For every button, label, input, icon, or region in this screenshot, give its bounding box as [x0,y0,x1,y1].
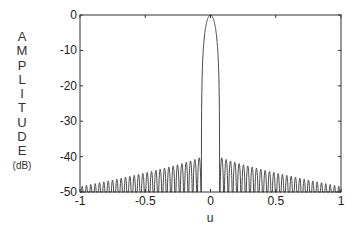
x-tick-label: 0.5 [267,194,284,208]
pattern-curve [80,15,341,192]
axis-ticks: -1-0.500.510-10-20-30-40-50 [60,8,345,208]
y-tick-label: -20 [60,79,78,93]
y-tick-label: -30 [60,114,78,128]
y-tick-label: -10 [60,43,78,57]
x-axis-label: u [207,211,214,225]
x-tick-label: -0.5 [135,194,156,208]
beam-pattern-chart: -1-0.500.510-10-20-30-40-50 u [0,0,355,229]
plot-frame [80,15,341,192]
y-tick-label: -40 [60,150,78,164]
y-tick-label: -50 [60,185,78,199]
x-tick-label: 0 [207,194,214,208]
y-tick-label: 0 [70,8,77,22]
x-tick-label: 1 [338,194,345,208]
